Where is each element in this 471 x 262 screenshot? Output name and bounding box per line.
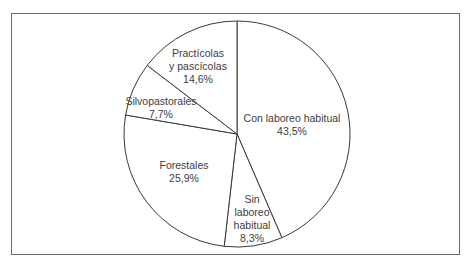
label-practicolas-pascicolas: Practícolas y pascícolas 14,6%	[169, 47, 227, 86]
label-silvopastorales: Silvopastorales 7,7%	[125, 95, 196, 121]
label-value: 43,5%	[244, 125, 341, 138]
label-forestales: Forestales 25,9%	[159, 159, 208, 185]
label-text: Forestales	[159, 159, 208, 172]
label-value: 25,9%	[159, 172, 208, 185]
label-con-laboreo-habitual: Con laboreo habitual 43,5%	[244, 112, 341, 138]
label-value: 7,7%	[125, 108, 196, 121]
label-sin-laboreo-habitual: Sin laboreo habitual 8,3%	[234, 193, 271, 245]
label-text: laboreo	[234, 206, 271, 219]
label-text: habitual	[234, 219, 271, 232]
label-text: y pascícolas	[169, 60, 227, 73]
label-text: Silvopastorales	[125, 95, 196, 108]
label-value: 14,6%	[169, 73, 227, 86]
label-text: Practícolas	[169, 47, 227, 60]
label-text: Con laboreo habitual	[244, 112, 341, 125]
label-text: Sin	[234, 193, 271, 206]
label-value: 8,3%	[234, 232, 271, 245]
